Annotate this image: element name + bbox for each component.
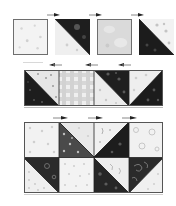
arrow-right-icon xyxy=(122,115,137,120)
arrow-right-icon xyxy=(53,115,68,120)
arrow-right-icon xyxy=(89,12,102,17)
row1-unit-1-light-square xyxy=(13,19,48,55)
divider xyxy=(23,62,43,63)
row1-unit-2-half-square-triangle xyxy=(55,19,90,55)
row1-unit-4-half-square-triangle xyxy=(139,19,174,55)
arrow-right-icon xyxy=(88,115,103,120)
arrow-right-icon xyxy=(131,12,144,17)
row3-shadow xyxy=(24,194,163,195)
arrow-left-icon xyxy=(85,62,98,67)
arrow-left-icon xyxy=(118,62,131,67)
arrow-left-icon xyxy=(49,62,62,67)
row2-strip xyxy=(24,70,163,106)
row2-shadow xyxy=(24,107,163,108)
arrow-right-icon xyxy=(47,12,60,17)
row3-block xyxy=(24,122,163,193)
row1-unit-3-medium-light-square xyxy=(97,19,132,55)
